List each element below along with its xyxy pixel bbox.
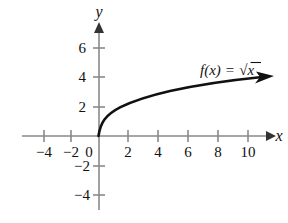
function-label-equals: =	[226, 62, 234, 78]
x-tick-label-10: 10	[241, 144, 256, 160]
x-tick-label--4: −4	[36, 144, 52, 160]
plot-canvas: −4 −2 0 2 4 6 8 10 6 4 2 −2 −4 y x f(x)=…	[0, 0, 288, 223]
x-tick-label-8: 8	[214, 144, 222, 160]
x-tick-label-2: 2	[124, 144, 132, 160]
function-label: f(x)=√x	[200, 62, 261, 79]
x-axis-label: x	[274, 127, 282, 144]
y-tick-label-2: 2	[79, 99, 87, 115]
square-root-function-graph: −4 −2 0 2 4 6 8 10 6 4 2 −2 −4 y x f(x)=…	[0, 0, 288, 223]
function-label-radicand: x	[247, 62, 255, 78]
x-tick-label-4: 4	[154, 144, 162, 160]
x-tick-label-6: 6	[184, 144, 192, 160]
sqrt-curve	[99, 77, 261, 136]
y-tick-label--2: −2	[74, 158, 90, 174]
y-axis-arrowhead	[94, 22, 104, 33]
function-label-arg: (x)	[204, 62, 221, 79]
y-axis-label: y	[93, 3, 103, 21]
y-tick-label-6: 6	[79, 40, 87, 56]
svg-text:f(x)=√x: f(x)=√x	[200, 62, 255, 79]
y-tick-label-4: 4	[79, 69, 87, 85]
y-tick-label--4: −4	[74, 187, 90, 203]
